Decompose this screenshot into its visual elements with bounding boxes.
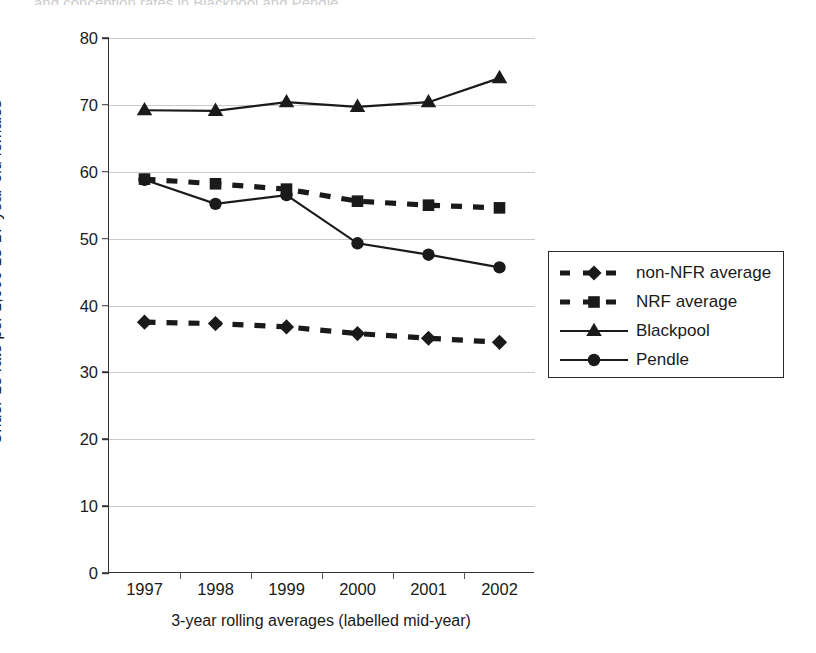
- y-tick-mark: [102, 505, 109, 507]
- diamond-marker: [208, 316, 223, 331]
- plot-area: 01020304050607080 1997199819992000200120…: [108, 38, 534, 573]
- y-tick-mark: [102, 372, 109, 374]
- x-tick-label: 1999: [247, 581, 327, 598]
- series-non-nfr-average: [137, 315, 507, 350]
- y-tick-label: 80: [40, 30, 98, 47]
- circle-sample-icon: [558, 350, 630, 370]
- circle-marker: [209, 198, 221, 210]
- triangle-marker: [279, 94, 295, 107]
- series-line: [145, 78, 500, 111]
- y-tick-label: 20: [40, 431, 98, 448]
- diamond-marker: [421, 331, 436, 346]
- y-tick-mark: [102, 171, 109, 173]
- y-axis-title: Under-18 rate per 1,000 15-17-year-old f…: [0, 2, 13, 542]
- x-tick-label: 2000: [318, 581, 398, 598]
- x-tick-mark: [322, 572, 323, 579]
- y-tick-mark: [102, 37, 109, 39]
- circle-marker: [588, 353, 600, 365]
- legend-item-blackpool[interactable]: Blackpool: [549, 316, 783, 345]
- legend-label: non-NFR average: [630, 263, 771, 283]
- x-tick-label: 2001: [389, 581, 469, 598]
- legend-item-pendle[interactable]: Pendle: [549, 345, 783, 374]
- legend-item-nrf-average[interactable]: NRF average: [549, 287, 783, 316]
- y-tick-label: 10: [40, 498, 98, 515]
- series-line: [145, 322, 500, 342]
- legend-label: Pendle: [630, 350, 689, 370]
- diamond-marker: [350, 326, 365, 341]
- cropped-caption-remnant: and conception rates in Blackpool and Pe…: [34, 0, 504, 5]
- square-marker: [210, 178, 222, 190]
- circle-marker: [280, 189, 292, 201]
- triangle-marker: [586, 322, 602, 335]
- circle-marker: [422, 248, 434, 260]
- series-nrf-average: [139, 173, 506, 213]
- triangle-sample-icon: [558, 321, 630, 341]
- y-tick-label: 40: [40, 297, 98, 314]
- triangle-marker: [492, 70, 508, 83]
- square-marker: [352, 195, 364, 207]
- y-tick-label: 70: [40, 97, 98, 114]
- series-blackpool: [137, 70, 508, 116]
- series-line: [145, 179, 500, 208]
- square-sample-icon: [558, 292, 630, 312]
- chart-legend: non-NFR averageNRF averageBlackpoolPendl…: [548, 251, 784, 378]
- series-pendle: [138, 174, 505, 274]
- square-marker: [588, 296, 600, 308]
- y-tick-mark: [102, 305, 109, 307]
- square-marker: [423, 199, 435, 211]
- square-marker: [494, 202, 506, 214]
- triangle-marker: [350, 99, 366, 112]
- y-tick-mark: [102, 438, 109, 440]
- legend-item-non-nfr-average[interactable]: non-NFR average: [549, 258, 783, 287]
- y-tick-mark: [102, 572, 109, 574]
- x-tick-label: 1998: [176, 581, 256, 598]
- legend-label: Blackpool: [630, 321, 710, 341]
- x-axis-title: 3-year rolling averages (labelled mid-ye…: [108, 612, 534, 630]
- circle-marker: [138, 174, 150, 186]
- circle-marker: [351, 237, 363, 249]
- triangle-marker: [137, 102, 153, 115]
- x-tick-label: 1997: [105, 581, 185, 598]
- y-tick-label: 30: [40, 364, 98, 381]
- x-tick-mark: [464, 572, 465, 579]
- y-tick-label: 50: [40, 230, 98, 247]
- series-layer: [109, 38, 535, 573]
- diamond-marker: [137, 315, 152, 330]
- y-tick-mark: [102, 104, 109, 106]
- chart-figure: and conception rates in Blackpool and Pe…: [0, 0, 816, 653]
- y-tick-mark: [102, 238, 109, 240]
- x-tick-mark: [251, 572, 252, 579]
- diamond-sample-icon: [558, 263, 630, 283]
- x-tick-mark: [180, 572, 181, 579]
- x-tick-mark: [393, 572, 394, 579]
- y-tick-label: 60: [40, 164, 98, 181]
- y-tick-label: 0: [40, 565, 98, 582]
- diamond-marker: [279, 319, 294, 334]
- x-tick-label: 2002: [460, 581, 540, 598]
- legend-label: NRF average: [630, 292, 737, 312]
- diamond-marker: [586, 265, 601, 280]
- diamond-marker: [492, 335, 507, 350]
- circle-marker: [493, 261, 505, 273]
